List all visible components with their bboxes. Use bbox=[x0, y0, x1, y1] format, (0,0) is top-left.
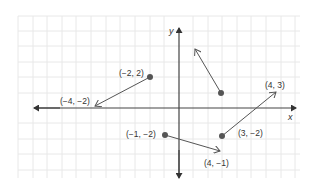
vector-4-tail-dot bbox=[218, 90, 224, 96]
label-minus2-2: (−2, 2) bbox=[119, 68, 144, 78]
vector-3 bbox=[162, 132, 220, 151]
label-minus1-minus2: (−1, −2) bbox=[126, 129, 156, 139]
label-4-minus1: (4, −1) bbox=[204, 158, 229, 168]
coordinate-plane-diagram: x y (−2, 2) (−4, −2) (4, 3) (−1, −2) (3,… bbox=[0, 0, 314, 184]
vector-3-tail-dot bbox=[162, 132, 168, 138]
label-3-minus2: (3, −2) bbox=[238, 128, 263, 138]
y-axis-label: y bbox=[168, 26, 174, 36]
vector-1 bbox=[95, 74, 153, 106]
label-minus4-minus2: (−4, −2) bbox=[60, 96, 90, 106]
plane-svg: x y (−2, 2) (−4, −2) (4, 3) (−1, −2) (3,… bbox=[0, 0, 314, 184]
vector-1-tail-dot bbox=[147, 74, 153, 80]
vector-2-tail-dot bbox=[219, 133, 225, 139]
x-axis-label: x bbox=[287, 112, 293, 122]
label-4-3: (4, 3) bbox=[265, 80, 285, 90]
vector-4 bbox=[195, 49, 224, 96]
